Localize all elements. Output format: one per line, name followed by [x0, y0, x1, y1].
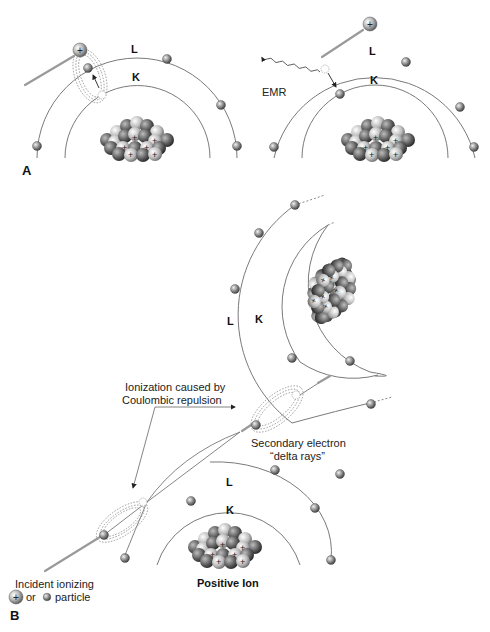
annotation-arrow-lower — [133, 407, 155, 488]
incident-proton — [73, 43, 87, 57]
electron — [163, 55, 172, 64]
secondary-electron-label-line2: “delta rays” — [270, 450, 325, 462]
label-k-shell: K — [132, 71, 140, 83]
label-l-shell: L — [226, 476, 233, 488]
nucleus — [100, 116, 174, 162]
orbit-l-shell — [238, 205, 295, 423]
vacancy — [321, 65, 329, 73]
ejected-electron — [84, 64, 93, 73]
positive-ion-caption: Positive Ion — [197, 577, 259, 589]
electron — [291, 201, 300, 210]
ionization-annotation-line2: Coulombic repulsion — [122, 394, 222, 406]
particle-track — [322, 30, 363, 57]
panel-label-a: A — [22, 163, 32, 178]
label-l-shell: L — [369, 45, 376, 57]
legend-or: or — [26, 591, 36, 603]
electron — [367, 400, 376, 409]
electron — [456, 103, 465, 112]
label-k-shell: K — [255, 313, 263, 325]
direction-arrow — [93, 75, 99, 88]
secondary-electron-label-line1: Secondary electron — [251, 437, 346, 449]
electron — [270, 143, 279, 152]
electron — [187, 497, 196, 506]
panel-label-b: B — [10, 608, 19, 623]
legend-line1: Incident ionizing — [15, 578, 94, 590]
label-emr: EMR — [262, 86, 287, 98]
incident-proton — [363, 17, 377, 31]
transition-arrow — [328, 73, 336, 87]
label-k-shell: K — [226, 504, 234, 516]
label-k-shell: K — [370, 74, 378, 86]
vacancy — [139, 498, 147, 506]
ionization-diagram: + + + + + + + L K — [0, 0, 490, 632]
proton-icon — [9, 590, 23, 604]
electron — [271, 466, 280, 475]
emr-wave — [261, 56, 320, 73]
electron — [233, 142, 242, 151]
ionization-annotation-line1: Ionization caused by — [125, 381, 226, 393]
electron — [327, 556, 336, 565]
vacancy — [292, 391, 300, 399]
legend: Incident ionizing or particle — [9, 578, 94, 604]
electron — [470, 143, 479, 152]
panel-a-right-atom: L K EMR — [261, 17, 478, 162]
vacancy — [98, 91, 106, 99]
panel-a-left-atom: L K — [25, 43, 242, 162]
electron — [217, 101, 226, 110]
electron — [402, 58, 411, 67]
electron — [346, 357, 355, 366]
nucleus — [341, 116, 415, 162]
electron — [255, 229, 264, 238]
electron — [33, 142, 42, 151]
electron — [231, 285, 240, 294]
electron — [336, 470, 345, 479]
electron — [288, 354, 297, 363]
particle-track — [25, 56, 74, 85]
transitioning-electron — [336, 90, 345, 99]
legend-particle: particle — [55, 591, 90, 603]
label-l-shell: L — [131, 43, 138, 55]
nucleus — [294, 249, 368, 334]
electron-icon — [43, 593, 51, 601]
secondary-electron — [252, 421, 261, 430]
incident-electron — [100, 531, 109, 540]
label-l-shell: L — [227, 315, 234, 327]
panel-b-lower-atom: L K Positive Ion — [121, 462, 345, 589]
incident-particle-track — [45, 537, 100, 571]
electron — [311, 504, 320, 513]
particle-path — [104, 432, 240, 535]
nucleus — [188, 523, 262, 569]
